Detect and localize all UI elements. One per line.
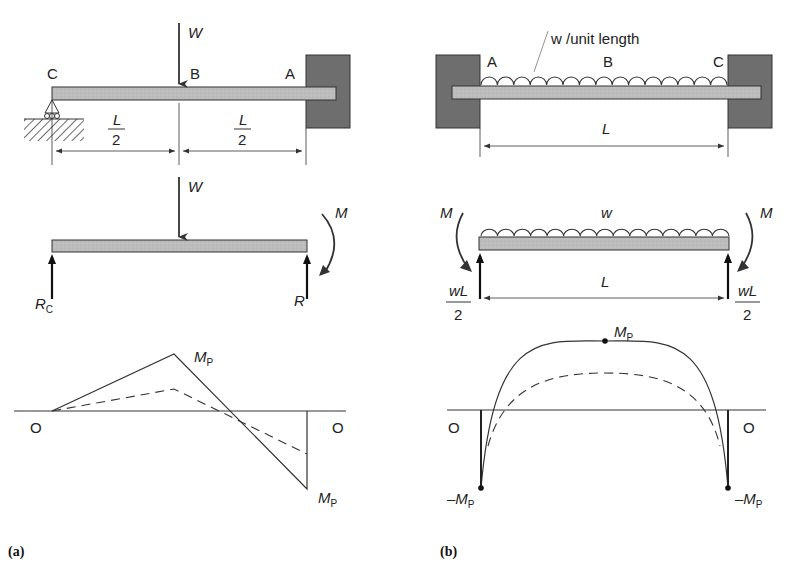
point-label-c-b: C xyxy=(713,53,724,70)
panel-b-free-body: w M M L wL 2 wL 2 xyxy=(440,204,773,323)
panel-label-a: (a) xyxy=(8,544,25,560)
panel-b-beam-setup: w /unit length A B C L xyxy=(436,30,772,157)
panel-a-moment-diagram: O O MP MP xyxy=(14,348,346,509)
moment-arrow-icon xyxy=(322,214,334,272)
panel-b: w /unit length A B C L w M M xyxy=(436,30,773,560)
elastic-moment-dashed xyxy=(52,389,307,454)
load-label-w: W xyxy=(188,24,204,41)
moment-label-right: M xyxy=(760,204,773,221)
beam-a xyxy=(52,87,336,100)
point-label-b: B xyxy=(190,65,200,82)
span-label-l-fbd: L xyxy=(601,273,609,290)
plastic-hinge-left xyxy=(478,485,484,491)
dim-left-den: 2 xyxy=(112,131,120,148)
plastic-hinge-mid xyxy=(602,338,608,344)
moment-arrow-right-icon xyxy=(741,213,752,268)
plastic-moment-curve xyxy=(481,341,728,488)
end-moment-label: MP xyxy=(318,489,338,509)
origin-label-left-b: O xyxy=(448,419,460,436)
reaction-left-den: 2 xyxy=(454,306,462,323)
peak-moment-label-b: MP xyxy=(614,323,634,343)
point-label-c: C xyxy=(47,65,58,82)
panel-b-moment-diagram: O O MP –MP –MP xyxy=(446,323,766,510)
plastic-moment-line xyxy=(52,354,307,489)
plastic-hinge-right xyxy=(725,485,731,491)
origin-label-left: O xyxy=(30,419,42,436)
moment-label-m: M xyxy=(335,204,348,221)
point-label-a: A xyxy=(285,65,295,82)
span-label-l: L xyxy=(602,120,610,137)
point-label-b-b: B xyxy=(603,53,613,70)
load-label-w-fbd: W xyxy=(188,178,204,195)
reaction-right-den: 2 xyxy=(743,306,751,323)
reaction-label-r: R xyxy=(294,292,305,309)
moment-label-left: M xyxy=(440,204,453,221)
beam-b xyxy=(452,86,761,99)
beam-b-fbd xyxy=(479,237,729,250)
end-moment-label-left-b: –MP xyxy=(446,490,475,510)
reaction-label-rc: RC xyxy=(35,295,53,315)
roller-support-icon xyxy=(24,100,84,141)
panel-a-free-body: W M RC R xyxy=(35,177,348,315)
origin-label-right-b: O xyxy=(743,419,755,436)
peak-moment-label: MP xyxy=(194,348,214,368)
point-label-a-b: A xyxy=(487,53,497,70)
load-label-w-fbd-b: w xyxy=(601,204,613,221)
reaction-left-num: wL xyxy=(449,282,468,299)
beam-plastic-collapse-figure: W C B A L 2 L xyxy=(0,0,795,580)
panel-a-beam-setup: W C B A L 2 L xyxy=(24,23,350,165)
load-label-w-unit: w /unit length xyxy=(550,30,639,47)
panel-label-b: (b) xyxy=(440,544,457,560)
origin-label-right: O xyxy=(332,419,344,436)
distributed-load-icon xyxy=(481,77,727,85)
distributed-load-icon-fbd xyxy=(481,229,729,236)
reaction-right-num: wL xyxy=(738,282,757,299)
dim-right-num: L xyxy=(239,111,247,128)
panel-a: W C B A L 2 L xyxy=(8,23,350,560)
beam-a-fbd xyxy=(52,240,307,252)
moment-arrow-left-icon xyxy=(457,213,468,268)
dim-left-num: L xyxy=(113,111,121,128)
dim-right-den: 2 xyxy=(238,131,246,148)
end-moment-label-right-b: –MP xyxy=(734,490,763,510)
